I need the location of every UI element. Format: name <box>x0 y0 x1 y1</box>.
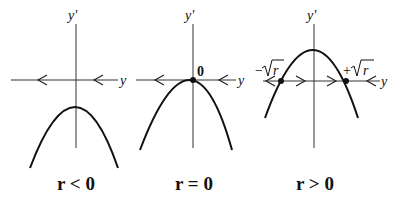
svg-text:+: + <box>343 63 351 78</box>
panel-r-zero: y' y 0 r = 0 <box>136 8 245 194</box>
parabola-curve <box>30 107 118 168</box>
yprime-label: y' <box>66 8 78 23</box>
condition-label: r > 0 <box>296 173 334 194</box>
pos-sqrt-r-label: + r <box>343 60 374 78</box>
parabola-curve <box>140 80 232 150</box>
yprime-label: y' <box>305 8 317 23</box>
svg-text:r: r <box>363 63 369 78</box>
fixed-point-label: 0 <box>197 64 204 79</box>
y-label: y <box>236 73 245 88</box>
neg-sqrt-r-label: − r <box>255 60 284 78</box>
condition-label: r = 0 <box>175 173 213 194</box>
y-label: y <box>379 74 388 89</box>
y-label: y <box>118 73 127 88</box>
panel-r-positive: y' y − r + r r > 0 <box>255 8 388 194</box>
panel-r-negative: y' y r < 0 <box>11 8 127 194</box>
fixed-point-dot <box>190 77 196 83</box>
svg-text:−: − <box>255 63 263 78</box>
condition-label: r < 0 <box>57 173 95 194</box>
yprime-label: y' <box>183 8 195 23</box>
bifurcation-diagram: y' y r < 0 y' y 0 r = 0 y' y − r <box>0 0 396 201</box>
fixed-point-dot-pos <box>343 78 349 84</box>
svg-text:r: r <box>273 63 279 78</box>
fixed-point-dot-neg <box>278 78 284 84</box>
